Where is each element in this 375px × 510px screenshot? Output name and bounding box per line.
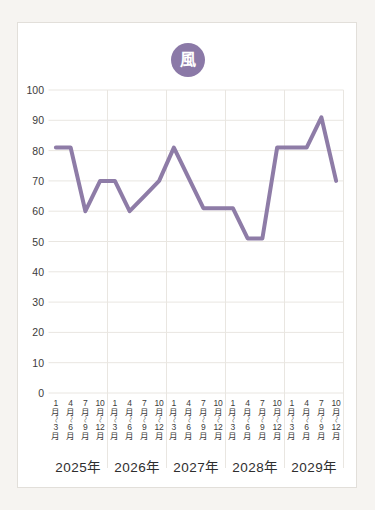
wave-dash: 〜 [215, 413, 221, 427]
y-tick-label-90: 90 [18, 114, 44, 126]
wave-dash: 〜 [156, 413, 162, 427]
quarter-label-char: 月 [284, 432, 300, 441]
quarter-label-char: 月 [48, 432, 64, 441]
wave-dash: 〜 [200, 413, 206, 427]
y-tick-label-100: 100 [18, 84, 44, 96]
fortune-chart-card: 風 1009080706050403020100 1月〜3月4月〜6月7月〜9月… [17, 22, 357, 488]
fortune-line-series [56, 117, 336, 238]
wave-dash: 〜 [333, 413, 339, 427]
quarter-label-2028年-10月〜12月: 10月〜12月 [269, 399, 285, 440]
quarter-label-2028年-7月〜9月: 7月〜9月 [254, 399, 270, 440]
quarter-label-char: 月 [299, 432, 315, 441]
quarter-label-2027年-1月〜3月: 1月〜3月 [166, 399, 182, 440]
wave-dash: 〜 [304, 413, 310, 427]
quarter-label-char: 月 [136, 432, 152, 441]
wave-dash: 〜 [289, 413, 295, 427]
quarter-label-char: 月 [210, 432, 226, 441]
wave-dash: 〜 [141, 413, 147, 427]
wave-dash: 〜 [171, 413, 177, 427]
year-label-2029年: 2029年 [285, 456, 344, 476]
quarter-label-2026年-4月〜6月: 4月〜6月 [122, 399, 138, 440]
quarter-label-2029年-4月〜6月: 4月〜6月 [299, 399, 315, 440]
y-tick-label-70: 70 [18, 175, 44, 187]
wave-dash: 〜 [68, 413, 74, 427]
quarter-label-2029年-10月〜12月: 10月〜12月 [328, 399, 344, 440]
wave-dash: 〜 [186, 413, 192, 427]
year-label-2025年: 2025年 [49, 456, 108, 476]
quarter-label-char: 月 [77, 432, 93, 441]
wave-dash: 〜 [318, 413, 324, 427]
quarter-label-2027年-7月〜9月: 7月〜9月 [195, 399, 211, 440]
wave-dash: 〜 [127, 413, 133, 427]
quarter-label-char: 月 [122, 432, 138, 441]
quarter-label-char: 月 [92, 432, 108, 441]
quarter-label-2025年-10月〜12月: 10月〜12月 [92, 399, 108, 440]
wave-dash: 〜 [112, 413, 118, 427]
wave-dash: 〜 [274, 413, 280, 427]
quarter-label-2025年-1月〜3月: 1月〜3月 [48, 399, 64, 440]
y-tick-label-40: 40 [18, 266, 44, 278]
y-tick-label-0: 0 [18, 387, 44, 399]
quarter-label-2027年-10月〜12月: 10月〜12月 [210, 399, 226, 440]
year-label-2028年: 2028年 [226, 456, 285, 476]
quarter-label-char: 月 [328, 432, 344, 441]
y-tick-label-50: 50 [18, 236, 44, 248]
quarter-label-2028年-4月〜6月: 4月〜6月 [240, 399, 256, 440]
wave-dash: 〜 [259, 413, 265, 427]
quarter-label-2025年-7月〜9月: 7月〜9月 [77, 399, 93, 440]
wave-dash: 〜 [230, 413, 236, 427]
y-tick-label-60: 60 [18, 205, 44, 217]
quarter-label-2026年-10月〜12月: 10月〜12月 [151, 399, 167, 440]
y-tick-label-80: 80 [18, 145, 44, 157]
quarter-label-char: 月 [195, 432, 211, 441]
quarter-label-char: 月 [151, 432, 167, 441]
y-tick-label-20: 20 [18, 326, 44, 338]
quarter-label-2029年-7月〜9月: 7月〜9月 [313, 399, 329, 440]
quarter-label-char: 月 [269, 432, 285, 441]
quarter-label-char: 月 [313, 432, 329, 441]
y-tick-label-30: 30 [18, 296, 44, 308]
quarter-label-char: 月 [254, 432, 270, 441]
quarter-label-char: 月 [240, 432, 256, 441]
wave-dash: 〜 [97, 413, 103, 427]
quarter-label-char: 月 [63, 432, 79, 441]
wave-dash: 〜 [53, 413, 59, 427]
quarter-label-char: 月 [166, 432, 182, 441]
quarter-label-2029年-1月〜3月: 1月〜3月 [284, 399, 300, 440]
quarter-label-2026年-7月〜9月: 7月〜9月 [136, 399, 152, 440]
quarter-label-2026年-1月〜3月: 1月〜3月 [107, 399, 123, 440]
wave-dash: 〜 [245, 413, 251, 427]
year-label-2026年: 2026年 [108, 456, 167, 476]
quarter-label-2027年-4月〜6月: 4月〜6月 [181, 399, 197, 440]
quarter-label-2025年-4月〜6月: 4月〜6月 [63, 399, 79, 440]
quarter-label-2028年-1月〜3月: 1月〜3月 [225, 399, 241, 440]
quarter-label-char: 月 [107, 432, 123, 441]
quarter-label-char: 月 [181, 432, 197, 441]
wave-dash: 〜 [82, 413, 88, 427]
y-tick-label-10: 10 [18, 357, 44, 369]
year-label-2027年: 2027年 [167, 456, 226, 476]
quarter-label-char: 月 [225, 432, 241, 441]
